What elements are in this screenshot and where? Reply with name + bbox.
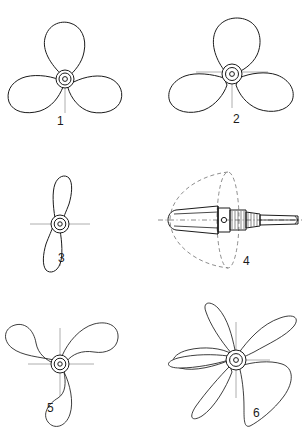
fig6-hub (226, 350, 246, 370)
figure-5-drawing (2, 302, 142, 432)
figure-6-label: 6 (253, 406, 260, 420)
figure-3-drawing (8, 160, 128, 280)
figure-6-drawing (158, 300, 306, 432)
figure-2-drawing (160, 8, 306, 128)
figure-2-label: 2 (233, 112, 240, 126)
fig1-hub (56, 70, 74, 88)
propeller-plate: 1 2 3 (0, 0, 306, 435)
fig5-hub (51, 355, 69, 373)
fig2-hub (222, 64, 242, 84)
figure-1-label: 1 (57, 114, 64, 128)
fig5-blades (6, 323, 119, 427)
figure-4-label: 4 (243, 254, 250, 268)
fig3-hub (51, 215, 69, 233)
figure-1-drawing (0, 8, 140, 128)
figure-4-drawing (152, 158, 306, 283)
fig4-nut-and-thread (230, 210, 298, 230)
figure-5-label: 5 (47, 401, 54, 415)
figure-3-label: 3 (58, 251, 65, 265)
